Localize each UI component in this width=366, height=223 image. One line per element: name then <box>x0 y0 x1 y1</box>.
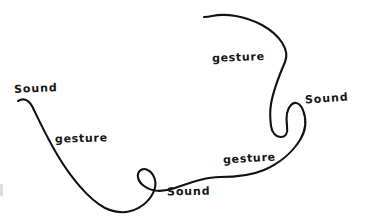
label-sound-right: Sound <box>305 91 349 105</box>
diagram-canvas: Sound gesture Sound gesture gesture Soun… <box>0 0 366 223</box>
label-gesture-top: gesture <box>212 51 265 64</box>
label-sound-bottom: Sound <box>167 186 211 198</box>
label-sound-left: Sound <box>14 82 58 95</box>
scan-edge-artifact <box>0 184 3 196</box>
label-gesture-middle: gesture <box>223 152 276 166</box>
label-gesture-left: gesture <box>55 132 108 144</box>
